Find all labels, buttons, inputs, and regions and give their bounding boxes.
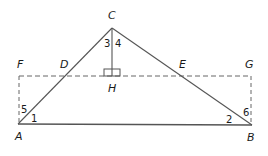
angle-label-4: 4 [115,38,121,49]
label-e: E [179,58,186,71]
label-h: H [108,82,116,95]
label-b: B [247,131,255,144]
label-d: D [60,58,68,71]
geometry-diagram: C F D E G H A B 1 2 3 4 5 6 [0,0,268,156]
label-c: C [108,9,116,22]
angle-label-2: 2 [226,114,232,125]
angle-label-3: 3 [104,38,110,49]
angle-label-5: 5 [21,104,27,115]
label-a: A [14,130,23,143]
segment-ab [18,124,252,125]
label-g: G [245,58,254,71]
label-f: F [17,58,24,71]
segment-ac [18,28,112,124]
angle-label-1: 1 [31,113,37,124]
angle-label-6: 6 [243,107,249,118]
